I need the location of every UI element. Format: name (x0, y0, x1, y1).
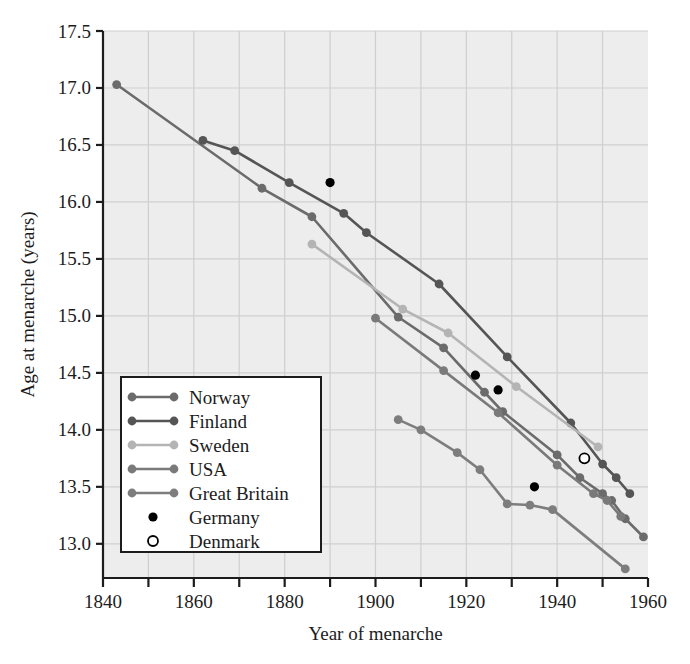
data-point (512, 382, 521, 391)
data-point (579, 453, 589, 463)
x-tick-label: 1840 (84, 591, 122, 612)
y-tick-label: 17.0 (58, 77, 91, 98)
data-point (471, 371, 480, 380)
y-tick-label: 16.0 (58, 191, 91, 212)
data-point (339, 209, 348, 218)
legend-label: Germany (189, 507, 260, 528)
x-axis-title: Year of menarche (308, 623, 442, 644)
data-point (625, 489, 634, 498)
legend-label: Sweden (189, 435, 250, 456)
legend-marker (148, 512, 157, 521)
legend-marker (128, 465, 137, 474)
y-tick-label: 14.5 (58, 362, 91, 383)
data-point (444, 329, 453, 338)
x-tick-label: 1900 (357, 591, 395, 612)
data-point (589, 489, 598, 498)
data-point (417, 425, 426, 434)
legend-label: Norway (189, 387, 251, 408)
series-denmark (579, 453, 589, 463)
data-point (621, 564, 630, 573)
data-point (398, 305, 407, 314)
data-point (603, 496, 612, 505)
data-point (530, 482, 539, 491)
y-tick-label: 16.5 (58, 134, 91, 155)
data-point (503, 500, 512, 509)
y-tick-label: 15.5 (58, 248, 91, 269)
legend-marker (128, 441, 137, 450)
data-point (435, 280, 444, 289)
y-tick-label: 13.5 (58, 476, 91, 497)
data-point (494, 385, 503, 394)
chart-container: 13.013.514.014.515.015.516.016.517.017.5… (0, 0, 690, 664)
x-tick-label: 1880 (266, 591, 304, 612)
y-tick-label: 14.0 (58, 419, 91, 440)
data-point (308, 212, 317, 221)
x-tick-label: 1960 (629, 591, 667, 612)
legend-label: Finland (189, 411, 248, 432)
y-tick-label: 13.0 (58, 533, 91, 554)
legend-marker (128, 417, 137, 426)
data-point (394, 313, 403, 322)
legend-label: Denmark (189, 531, 260, 552)
y-tick-label: 17.5 (58, 21, 91, 42)
data-point (285, 178, 294, 187)
data-point (548, 505, 557, 514)
y-tick-label: 15.0 (58, 305, 91, 326)
legend-marker (128, 489, 137, 498)
data-point (439, 366, 448, 375)
data-point (526, 501, 535, 510)
x-tick-label: 1860 (175, 591, 213, 612)
legend-marker (170, 417, 179, 426)
data-point (394, 415, 403, 424)
data-point (612, 473, 621, 482)
menarche-line-chart: 13.013.514.014.515.015.516.016.517.017.5… (0, 0, 690, 664)
data-point (553, 461, 562, 470)
data-point (362, 228, 371, 237)
data-point (325, 178, 334, 187)
data-point (494, 408, 503, 417)
data-point (553, 451, 562, 460)
legend-marker (170, 441, 179, 450)
legend: NorwayFinlandSwedenUSAGreat BritainGerma… (121, 377, 321, 552)
data-point (639, 533, 648, 542)
data-point (371, 314, 380, 323)
legend-marker (170, 393, 179, 402)
data-point (598, 460, 607, 469)
legend-label: Great Britain (189, 483, 289, 504)
data-point (199, 136, 208, 145)
data-point (453, 448, 462, 457)
legend-marker (170, 465, 179, 474)
x-tick-label: 1920 (447, 591, 485, 612)
legend-label: USA (189, 459, 227, 480)
data-point (480, 388, 489, 397)
data-point (476, 465, 485, 474)
data-point (258, 184, 267, 193)
legend-marker (170, 489, 179, 498)
data-point (439, 343, 448, 352)
data-point (230, 146, 239, 155)
data-point (112, 80, 121, 89)
x-tick-label: 1940 (538, 591, 576, 612)
legend-marker (128, 393, 137, 402)
y-axis-title: Age at menarche (years) (17, 211, 39, 397)
legend-marker (148, 536, 158, 546)
data-point (594, 443, 603, 452)
data-point (616, 512, 625, 521)
data-point (308, 240, 317, 249)
data-point (503, 353, 512, 362)
